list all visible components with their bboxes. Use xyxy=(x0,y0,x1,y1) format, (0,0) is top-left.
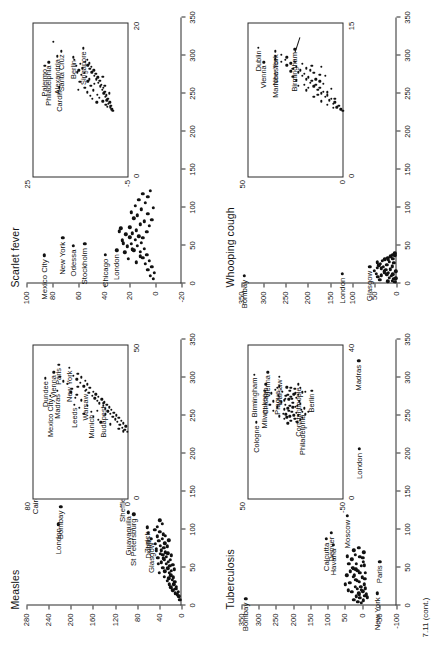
inset-data-point-labeled xyxy=(57,363,59,365)
inset-data-point xyxy=(91,97,93,99)
x-tick xyxy=(181,92,185,93)
x-tick xyxy=(181,168,185,169)
x-tick-label: 50 xyxy=(402,563,411,571)
inset-data-point xyxy=(93,82,95,84)
data-point xyxy=(146,211,149,214)
inset-data-point xyxy=(94,392,96,394)
inset-data-point xyxy=(312,71,314,73)
inset-data-point-labeled xyxy=(59,50,61,52)
inset-data-point xyxy=(284,413,286,415)
inset-data-point-label: Leeds xyxy=(69,407,78,427)
data-point xyxy=(354,567,357,570)
inset-data-point xyxy=(86,91,88,93)
inset-data-point xyxy=(89,94,91,96)
data-point-labeled xyxy=(378,559,381,562)
inset-data-point xyxy=(285,55,287,57)
inset-data-point xyxy=(83,86,85,88)
data-point xyxy=(363,586,366,589)
x-tick xyxy=(396,452,400,453)
y-tick-label: 160 xyxy=(88,613,97,626)
data-point xyxy=(143,262,146,265)
inset-data-point xyxy=(285,63,287,65)
inset-data-point xyxy=(306,86,308,88)
inset-data-point xyxy=(282,417,284,419)
data-point-label: Odessa xyxy=(68,249,77,276)
data-point xyxy=(362,550,365,553)
inset-data-point xyxy=(124,425,126,427)
x-tick xyxy=(181,376,185,377)
y-tick xyxy=(70,605,71,609)
data-point-label: Bombay xyxy=(56,510,65,539)
y-tick xyxy=(181,283,182,287)
y-tick-label: -100 xyxy=(392,613,401,628)
x-tick-label: 350 xyxy=(402,333,411,346)
x-tick-label: 100 xyxy=(187,523,196,536)
inset-data-point xyxy=(286,421,288,423)
data-point xyxy=(362,563,365,566)
data-point xyxy=(169,585,172,588)
data-point xyxy=(168,558,171,561)
data-point xyxy=(355,578,358,581)
data-point-label: Glasgow xyxy=(365,270,374,300)
data-point-labeled xyxy=(340,271,343,274)
inset-data-point xyxy=(52,40,54,42)
data-point-labeled xyxy=(59,505,62,508)
data-point xyxy=(375,260,378,263)
x-tick-label: 0 xyxy=(402,281,411,285)
inset-data-point-labeled xyxy=(278,375,280,377)
inset-data-point xyxy=(101,99,103,101)
data-point-labeled xyxy=(149,536,152,539)
x-axis-line xyxy=(180,339,181,605)
inset-data-point-label: Berlin xyxy=(307,393,316,412)
inset-x-max-label: 40 xyxy=(346,343,355,351)
data-point xyxy=(133,237,136,240)
inset-data-point-labeled xyxy=(44,377,46,379)
inset-data-point xyxy=(286,406,288,408)
x-axis-line xyxy=(395,17,396,283)
data-point xyxy=(128,235,131,238)
figure-rotation-wrapper: 7.11 (cont.) Measles05010015020025030035… xyxy=(0,0,431,645)
y-tick-label: 280 xyxy=(22,613,31,626)
data-point xyxy=(138,222,141,225)
data-point xyxy=(151,277,154,280)
data-point xyxy=(139,240,142,243)
inset-data-point-labeled xyxy=(81,47,83,49)
data-point xyxy=(347,562,350,565)
data-point xyxy=(132,248,135,251)
y-tick-label: 20 xyxy=(125,291,134,299)
data-point-labeled xyxy=(132,512,135,515)
data-point-labeled xyxy=(60,236,63,239)
data-point xyxy=(350,565,353,568)
x-tick xyxy=(181,566,185,567)
y-tick xyxy=(330,283,331,287)
y-tick-label: 50 xyxy=(340,613,349,621)
inset-plot-area: Mexico CityDundeeMadrasViennaParisNew Yo… xyxy=(33,345,127,497)
inset-data-point xyxy=(117,427,119,429)
plot-panel-whooping-cough: Whooping cough05010015020025030035005010… xyxy=(215,1,430,323)
data-point xyxy=(158,518,161,521)
inset-data-point-label: Cologne xyxy=(251,425,260,453)
data-point xyxy=(137,234,140,237)
data-point xyxy=(173,591,176,594)
inset-data-point xyxy=(103,90,105,92)
inset-data-point-label: Vienna xyxy=(263,375,272,398)
data-point xyxy=(165,544,168,547)
x-tick xyxy=(396,566,400,567)
data-point xyxy=(157,571,160,574)
inset-plot-area: ViennaDublinManchesterNew YorkBirmingham xyxy=(248,23,342,175)
data-point xyxy=(392,261,395,264)
y-tick xyxy=(137,605,138,609)
inset-data-point xyxy=(107,406,109,408)
y-tick xyxy=(26,605,27,609)
inset-data-point xyxy=(324,74,326,76)
x-tick-label: 150 xyxy=(187,163,196,176)
data-point-label: Moscow xyxy=(343,519,352,548)
inset-data-point xyxy=(92,390,94,392)
y-tick xyxy=(159,605,160,609)
inset-data-point-labeled xyxy=(101,402,103,404)
inset-data-point xyxy=(121,426,123,428)
data-point-label: London xyxy=(112,254,121,280)
inset-plot: CologneBirminghamMilwaukeeChicagoViennaP… xyxy=(247,344,343,498)
inset-data-point xyxy=(100,83,102,85)
inset-data-point xyxy=(103,84,105,86)
